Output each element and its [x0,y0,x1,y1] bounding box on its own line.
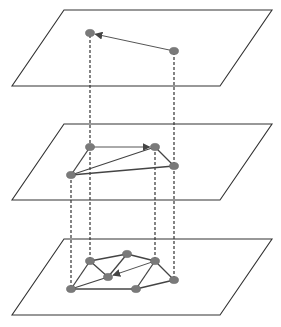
graph-node [104,273,113,280]
graph-node [86,257,95,264]
graph-node [151,143,160,150]
graph-node [132,285,141,292]
diagram-canvas [0,0,281,327]
layered-graph-diagram [0,0,281,327]
graph-node [170,47,179,54]
planes [12,10,272,315]
graph-node [170,162,179,169]
graph-edge [71,261,90,289]
directed-edge-arrow [95,34,174,51]
graph-node [170,276,179,283]
graph-edge [71,147,90,175]
top-plane [12,10,272,86]
graph-node [151,257,160,264]
graph-nodes [67,29,179,292]
middle-plane [12,124,272,200]
graph-node [123,250,132,257]
graph-node [86,29,95,36]
graph-node [67,285,76,292]
graph-edges [71,34,174,289]
graph-edge [71,277,108,289]
bottom-plane [12,239,272,315]
projection-lines [71,35,174,289]
graph-node [67,171,76,178]
graph-node [86,143,95,150]
